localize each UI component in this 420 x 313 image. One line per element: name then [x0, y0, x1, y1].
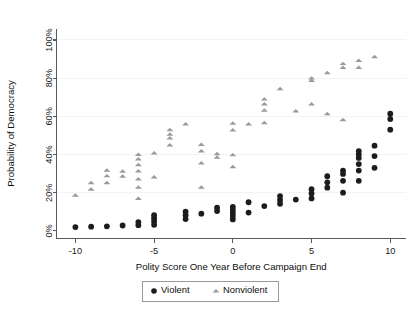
x-axis-title: Polity Score One Year Before Campaign En…: [136, 261, 327, 272]
y-axis-tick-label: 100%: [44, 28, 54, 52]
data-point-triangle: [182, 122, 189, 125]
data-point-triangle: [88, 181, 95, 184]
data-point-circle: [246, 210, 252, 216]
data-point-circle: [356, 168, 362, 174]
data-point-triangle: [198, 161, 205, 164]
data-point-triangle: [355, 59, 362, 62]
data-point-triangle: [119, 169, 126, 172]
data-point-circle: [151, 212, 157, 218]
data-point-circle: [340, 178, 346, 184]
data-point-triangle: [292, 109, 299, 112]
data-point-circle: [104, 223, 110, 229]
data-point-circle: [214, 205, 220, 211]
data-point-circle: [230, 204, 236, 210]
legend-label-violent: Violent: [161, 284, 190, 295]
data-point-circle: [277, 193, 283, 199]
data-point-triangle: [119, 174, 126, 177]
data-point-triangle: [166, 128, 173, 131]
axes-layer: [53, 29, 407, 243]
data-point-triangle: [261, 121, 268, 124]
data-point-circle: [309, 186, 315, 192]
data-point-circle: [356, 148, 362, 154]
data-point-circle: [340, 190, 346, 196]
data-point-triangle: [135, 157, 142, 160]
data-point-triangle: [166, 132, 173, 135]
x-axis-tick-label: 5: [309, 246, 314, 256]
data-point-triangle: [229, 128, 236, 131]
data-point-triangle: [229, 121, 236, 124]
data-point-triangle: [355, 65, 362, 68]
axis-labels-layer: 0%20%40%60%80%100%-10-50510Polity Score …: [5, 28, 395, 271]
data-point-circle: [183, 209, 189, 215]
x-axis-tick-label: 0: [230, 246, 235, 256]
data-point-triangle: [340, 118, 347, 121]
data-point-triangle: [135, 185, 142, 188]
data-point-circle: [324, 185, 330, 191]
legend-marker-circle: [151, 288, 157, 294]
y-axis-tick-label: 80%: [44, 69, 54, 87]
data-point-circle: [261, 203, 267, 209]
legend-label-nonviolent: Nonviolent: [223, 284, 268, 295]
data-point-triangle: [340, 62, 347, 65]
data-point-triangle: [135, 163, 142, 166]
y-axis-tick-label: 60%: [44, 107, 54, 125]
data-point-triangle: [198, 143, 205, 146]
data-point-triangle: [277, 87, 284, 90]
x-axis-tick-label: 10: [385, 246, 395, 256]
data-point-triangle: [198, 185, 205, 188]
data-point-triangle: [261, 97, 268, 100]
data-point-circle: [88, 224, 94, 230]
data-point-circle: [293, 197, 299, 203]
data-point-circle: [387, 127, 393, 133]
data-point-circle: [372, 143, 378, 149]
data-point-circle: [72, 224, 78, 230]
x-axis-tick-label: -5: [150, 246, 158, 256]
data-point-circle: [246, 199, 252, 205]
data-point-triangle: [166, 143, 173, 146]
data-point-triangle: [261, 108, 268, 111]
data-point-triangle: [245, 122, 252, 125]
data-point-circle: [356, 161, 362, 167]
data-point-triangle: [103, 174, 110, 177]
data-point-circle: [387, 111, 393, 117]
y-axis-tick-label: 40%: [44, 145, 54, 163]
data-point-circle: [372, 165, 378, 171]
data-point-triangle: [308, 102, 315, 105]
data-point-triangle: [135, 196, 142, 199]
data-point-triangle: [261, 102, 268, 105]
data-point-triangle: [151, 151, 158, 154]
data-point-triangle: [371, 55, 378, 58]
data-point-triangle: [151, 175, 158, 178]
data-point-triangle: [103, 168, 110, 171]
data-point-triangle: [340, 65, 347, 68]
data-point-circle: [356, 178, 362, 184]
data-point-circle: [340, 168, 346, 174]
data-point-circle: [120, 223, 126, 229]
chart-canvas: 0%20%40%60%80%100%-10-50510Polity Score …: [0, 0, 420, 313]
data-point-circle: [309, 196, 315, 202]
data-point-triangle: [324, 112, 331, 115]
data-point-circle: [324, 179, 330, 185]
data-point-circle: [135, 219, 141, 225]
x-axis-tick-label: -10: [69, 246, 82, 256]
scatter-plot-figure: 0%20%40%60%80%100%-10-50510Polity Score …: [0, 0, 420, 313]
data-point-circle: [372, 153, 378, 159]
series-nonviolent: [72, 55, 378, 200]
data-point-triangle: [135, 177, 142, 180]
data-point-circle: [387, 116, 393, 122]
data-point-triangle: [135, 169, 142, 172]
data-point-triangle: [324, 71, 331, 74]
data-point-triangle: [72, 193, 79, 196]
data-point-circle: [198, 211, 204, 217]
data-point-triangle: [229, 165, 236, 168]
y-axis-tick-label: 0%: [44, 224, 54, 237]
data-point-triangle: [166, 136, 173, 139]
data-point-triangle: [198, 149, 205, 152]
data-series-layer: [72, 55, 393, 230]
grid-layer: [57, 40, 407, 193]
chart-legend: ViolentNonviolent: [142, 281, 278, 301]
data-point-circle: [324, 173, 330, 179]
y-axis-tick-label: 20%: [44, 183, 54, 201]
y-axis-title: Probability of Democracy: [5, 80, 16, 187]
data-point-triangle: [88, 187, 95, 190]
